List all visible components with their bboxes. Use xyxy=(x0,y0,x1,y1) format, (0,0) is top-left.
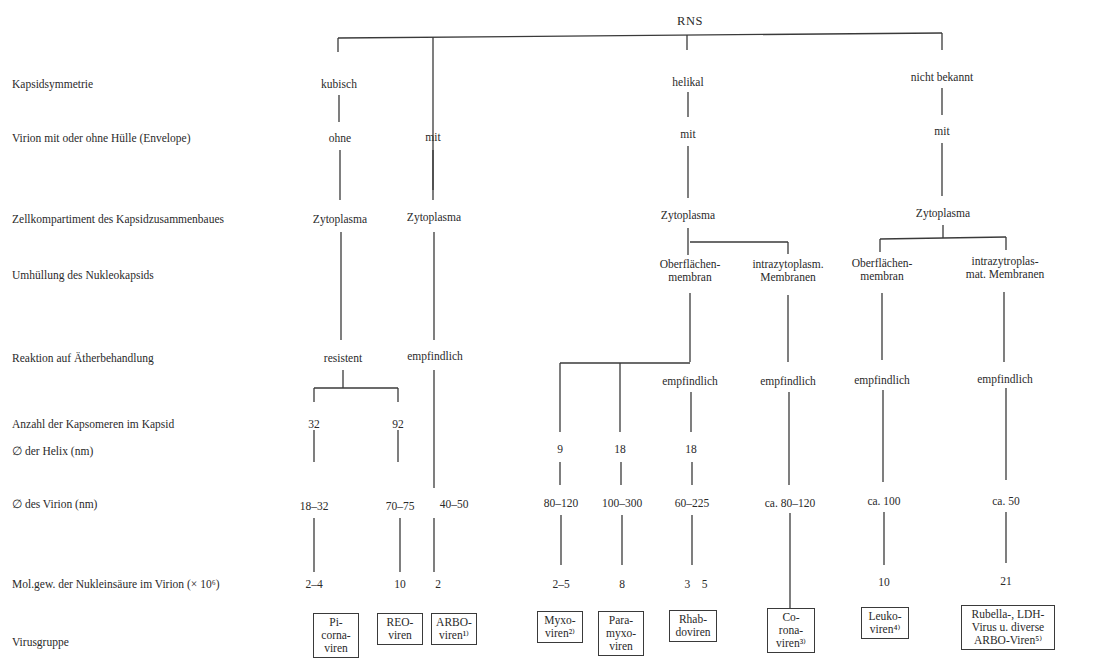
row-label-nucleocapsid-envelope: Umhüllung des Nukleokapsids xyxy=(12,269,154,281)
node-intracytoplasmic-helikal: intrazytoplasm. Membranen xyxy=(752,258,823,284)
diameter-leuko: ca. 100 xyxy=(867,495,900,508)
capsomeres-reo: 92 xyxy=(392,418,404,431)
group-box-arboviren: ARBO- viren¹⁾ xyxy=(431,613,477,645)
node-surface-membrane-unknown: Oberflächen- membran xyxy=(852,257,913,283)
node-zytoplasma-arbo: Zytoplasma xyxy=(407,211,461,224)
node-ohne: ohne xyxy=(329,132,351,145)
molweight-rubella: 21 xyxy=(1000,575,1012,588)
diameter-myxo: 80–120 xyxy=(544,497,579,510)
row-label-helix-diameter: ∅ der Helix (nm) xyxy=(12,444,93,458)
node-zytoplasma-helikal: Zytoplasma xyxy=(661,209,715,222)
node-ether-rubella: empfindlich xyxy=(977,373,1033,386)
diameter-rhabdo: 60–225 xyxy=(675,497,710,510)
group-box-leukoviren: Leuko- viren⁴⁾ xyxy=(861,607,909,639)
helix-rhabdo: 18 xyxy=(685,443,697,456)
row-label-molweight: Mol.gew. der Nukleinsäure im Virion (× 1… xyxy=(12,578,220,590)
capsomeres-picorna: 32 xyxy=(308,418,320,431)
node-zytoplasma-unknown: Zytoplasma xyxy=(916,207,970,220)
group-box-paramyxoviren: Para- myxo- viren xyxy=(598,611,644,656)
molweight-leuko: 10 xyxy=(878,576,890,589)
helix-myxo: 9 xyxy=(557,443,563,456)
group-box-coronaviren: Co- rona- viren³⁾ xyxy=(767,608,815,653)
node-helikal: helikal xyxy=(672,76,703,89)
diameter-reo: 70–75 xyxy=(386,500,415,513)
node-mit-unknown: mit xyxy=(934,125,949,138)
group-box-rhabdoviren: Rhab- doviren xyxy=(669,610,717,642)
group-box-picornaviren: Pi- corna- viren xyxy=(313,613,359,658)
diameter-corona: ca. 80–120 xyxy=(765,497,815,510)
node-surface-membrane-helikal: Oberflächen- membran xyxy=(660,258,721,284)
molweight-picorna: 2–4 xyxy=(305,578,322,591)
row-label-virion-diameter: ∅ des Virion (nm) xyxy=(12,497,97,511)
molweight-rhabdo: 3 5 xyxy=(685,578,708,591)
node-kubisch: kubisch xyxy=(321,78,357,91)
node-intracytoplasmic-unknown: intrazytroplas- mat. Membranen xyxy=(966,255,1045,281)
row-label-ether-reaction: Reaktion auf Ätherbehandlung xyxy=(12,352,154,364)
node-ether-resistent: resistent xyxy=(324,352,362,365)
node-ether-leuko: empfindlich xyxy=(854,374,910,387)
diameter-paramyxo: 100–300 xyxy=(602,497,642,510)
root-node-rns: RNS xyxy=(677,14,703,29)
node-ether-arbo: empfindlich xyxy=(407,350,463,363)
diameter-picorna: 18–32 xyxy=(300,500,329,513)
node-zytoplasma-kubisch: Zytoplasma xyxy=(313,213,367,226)
diameter-rubella: ca. 50 xyxy=(992,495,1019,508)
molweight-reo: 10 xyxy=(394,578,406,591)
molweight-paramyxo: 8 xyxy=(619,578,625,591)
row-label-envelope: Virion mit oder ohne Hülle (Envelope) xyxy=(12,132,190,144)
row-label-virus-group: Virusgruppe xyxy=(12,636,69,648)
connector-lines xyxy=(0,0,1113,667)
node-mit-arbo: mit xyxy=(425,131,440,144)
group-box-rubella-ldh-arbo: Rubella-, LDH- Virus u. diverse ARBO-Vir… xyxy=(961,605,1055,650)
node-mit-helikal: mit xyxy=(680,128,695,141)
node-ether-rhabdo: empfindlich xyxy=(662,375,718,388)
molweight-arbo: 2 xyxy=(435,578,441,591)
diameter-arbo: 40–50 xyxy=(440,498,469,511)
group-box-myxoviren: Myxo- viren²⁾ xyxy=(537,611,583,643)
molweight-myxo: 2–5 xyxy=(552,578,569,591)
row-label-compartment: Zellkompartiment des Kapsidzusammenbaues xyxy=(12,213,224,225)
node-unknown: nicht bekannt xyxy=(911,71,973,84)
virus-classification-diagram: RNS Kapsidsymmetrie Virion mit oder ohne… xyxy=(0,0,1113,667)
node-ether-corona: empfindlich xyxy=(760,375,816,388)
row-label-capsomeres: Anzahl der Kapsomeren im Kapsid xyxy=(12,418,174,430)
helix-paramyxo: 18 xyxy=(614,443,626,456)
group-box-reoviren: REO- viren xyxy=(377,613,423,645)
row-label-capsid-symmetry: Kapsidsymmetrie xyxy=(12,78,93,90)
